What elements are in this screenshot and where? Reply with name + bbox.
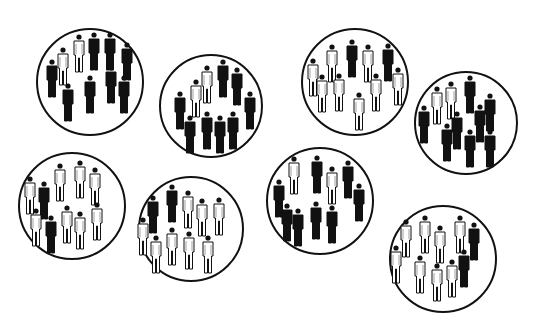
person-white-icon: [54, 163, 66, 203]
person-white-icon: [353, 92, 365, 132]
person-white-icon: [91, 202, 103, 242]
person-white-icon: [434, 225, 446, 265]
person-black-icon: [292, 208, 304, 248]
person-white-icon: [57, 47, 69, 87]
person-white-icon: [333, 73, 345, 113]
person-white-icon: [89, 167, 101, 207]
person-black-icon: [441, 123, 453, 163]
person-white-icon: [137, 217, 149, 257]
person-black-icon: [88, 32, 100, 72]
person-white-icon: [213, 197, 225, 237]
person-white-icon: [61, 205, 73, 245]
person-black-icon: [310, 201, 322, 241]
person-white-icon: [419, 215, 431, 255]
person-black-icon: [105, 65, 117, 105]
person-black-icon: [326, 205, 338, 245]
person-black-icon: [484, 129, 496, 169]
person-white-icon: [431, 86, 443, 126]
person-white-icon: [446, 259, 458, 299]
person-white-icon: [326, 166, 338, 206]
person-black-icon: [62, 83, 74, 123]
person-black-icon: [166, 184, 178, 224]
person-white-icon: [431, 263, 443, 303]
person-black-icon: [217, 59, 229, 99]
person-white-icon: [414, 255, 426, 295]
person-black-icon: [118, 75, 130, 115]
person-white-icon: [73, 34, 85, 74]
person-white-icon: [201, 65, 213, 105]
person-black-icon: [45, 215, 57, 255]
person-white-icon: [370, 73, 382, 113]
person-white-icon: [74, 160, 86, 200]
person-white-icon: [390, 245, 402, 285]
person-white-icon: [392, 67, 404, 107]
person-white-icon: [30, 208, 42, 248]
population-groups-illustration: [0, 0, 541, 322]
person-black-icon: [201, 111, 213, 151]
person-black-icon: [214, 115, 226, 155]
person-white-icon: [316, 74, 328, 114]
person-white-icon: [74, 211, 86, 251]
person-black-icon: [184, 115, 196, 155]
person-black-icon: [464, 129, 476, 169]
person-black-icon: [418, 105, 430, 145]
person-white-icon: [150, 235, 162, 275]
person-white-icon: [182, 190, 194, 230]
person-black-icon: [244, 91, 256, 131]
person-black-icon: [458, 249, 470, 289]
person-black-icon: [84, 75, 96, 115]
person-white-icon: [166, 227, 178, 267]
person-white-icon: [202, 235, 214, 275]
person-black-icon: [311, 155, 323, 195]
person-white-icon: [196, 198, 208, 238]
person-black-icon: [353, 183, 365, 223]
person-white-icon: [288, 156, 300, 196]
person-black-icon: [346, 39, 358, 79]
person-black-icon: [227, 111, 239, 151]
person-white-icon: [183, 231, 195, 271]
person-black-icon: [231, 67, 243, 107]
